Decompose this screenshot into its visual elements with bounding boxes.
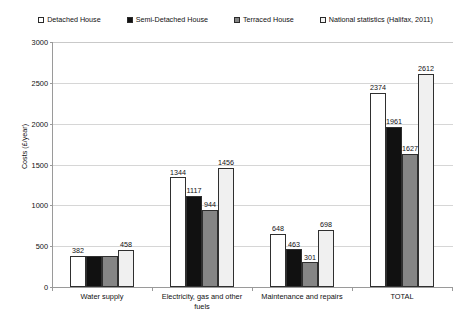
bar bbox=[318, 230, 334, 287]
bar bbox=[170, 177, 186, 287]
y-axis-tick-label: 0 bbox=[44, 283, 48, 292]
bar-group: 382458 bbox=[52, 42, 152, 287]
bar bbox=[402, 154, 418, 287]
x-axis-category-label: TOTAL bbox=[354, 292, 450, 302]
bar-value-label: 1627 bbox=[402, 145, 418, 152]
x-axis-tick bbox=[152, 287, 153, 291]
legend-swatch-icon bbox=[38, 17, 44, 23]
bar bbox=[270, 234, 286, 287]
bar bbox=[86, 256, 102, 287]
bar-value-label: 463 bbox=[288, 241, 300, 248]
bar-value-label: 1456 bbox=[218, 159, 234, 166]
y-axis-tick-label: 2000 bbox=[32, 119, 48, 128]
x-axis-category-label: Water supply bbox=[54, 292, 150, 302]
legend-item-label: Terraced House bbox=[243, 16, 294, 23]
bar-value-label: 2374 bbox=[370, 84, 386, 91]
x-axis-category-label: Electricity, gas and otherfuels bbox=[154, 292, 250, 311]
bar bbox=[70, 256, 86, 287]
x-axis-category-line: Maintenance and repairs bbox=[254, 292, 350, 302]
bar-group: 2374196116272612 bbox=[352, 42, 452, 287]
legend-item: Semi-Detached House bbox=[127, 16, 208, 23]
legend-item: National statistics (Halifax, 2011) bbox=[320, 16, 433, 23]
bar-value-label: 1117 bbox=[187, 187, 202, 194]
x-axis-category-line: Water supply bbox=[54, 292, 150, 302]
bar-value-label: 2612 bbox=[418, 65, 434, 72]
bar bbox=[186, 196, 202, 287]
chart-legend: Detached HouseSemi-Detached HouseTerrace… bbox=[0, 12, 471, 28]
bar bbox=[102, 256, 118, 287]
legend-item-label: Detached House bbox=[47, 16, 101, 23]
bar bbox=[202, 210, 218, 287]
bar-value-label: 301 bbox=[304, 254, 316, 261]
bar-value-label: 648 bbox=[272, 225, 284, 232]
bar-value-label: 944 bbox=[204, 201, 216, 208]
bar bbox=[386, 127, 402, 287]
x-axis-category-line: fuels bbox=[154, 302, 250, 312]
legend-swatch-icon bbox=[127, 17, 133, 23]
legend-item: Detached House bbox=[38, 16, 101, 23]
x-axis-labels: Water supplyElectricity, gas and otherfu… bbox=[52, 292, 452, 320]
legend-item-label: National statistics (Halifax, 2011) bbox=[329, 16, 433, 23]
x-axis-category-line: Electricity, gas and other bbox=[154, 292, 250, 302]
bar bbox=[418, 74, 434, 287]
y-axis-title: Costs (£/year) bbox=[20, 92, 29, 202]
x-axis-category-line: TOTAL bbox=[354, 292, 450, 302]
y-axis-tick-label: 3000 bbox=[32, 38, 48, 47]
y-axis-tick-label: 1500 bbox=[32, 160, 48, 169]
bar-value-label: 458 bbox=[120, 241, 132, 248]
bar-value-label: 698 bbox=[320, 221, 332, 228]
bar-value-label: 1961 bbox=[386, 118, 402, 125]
x-axis-tick bbox=[352, 287, 353, 291]
bar bbox=[118, 250, 134, 287]
bar-group: 648463301698 bbox=[252, 42, 352, 287]
bars-layer: 3824581344111794414566484633016982374196… bbox=[52, 42, 452, 287]
y-axis-tick-label: 500 bbox=[36, 242, 48, 251]
x-axis-tick bbox=[52, 287, 53, 291]
legend-swatch-icon bbox=[234, 17, 240, 23]
bar-value-label: 1344 bbox=[170, 169, 186, 176]
y-axis-tick-label: 1000 bbox=[32, 201, 48, 210]
x-axis-tick bbox=[452, 287, 453, 291]
legend-swatch-icon bbox=[320, 17, 326, 23]
x-axis-tick bbox=[252, 287, 253, 291]
bar bbox=[218, 168, 234, 287]
bar-value-label: 382 bbox=[72, 247, 84, 254]
bar bbox=[286, 249, 302, 287]
bar-group: 134411179441456 bbox=[152, 42, 252, 287]
legend-item: Terraced House bbox=[234, 16, 294, 23]
bar bbox=[370, 93, 386, 287]
x-axis-category-label: Maintenance and repairs bbox=[254, 292, 350, 302]
bar bbox=[302, 262, 318, 287]
legend-item-label: Semi-Detached House bbox=[136, 16, 208, 23]
y-axis-tick-label: 2500 bbox=[32, 78, 48, 87]
